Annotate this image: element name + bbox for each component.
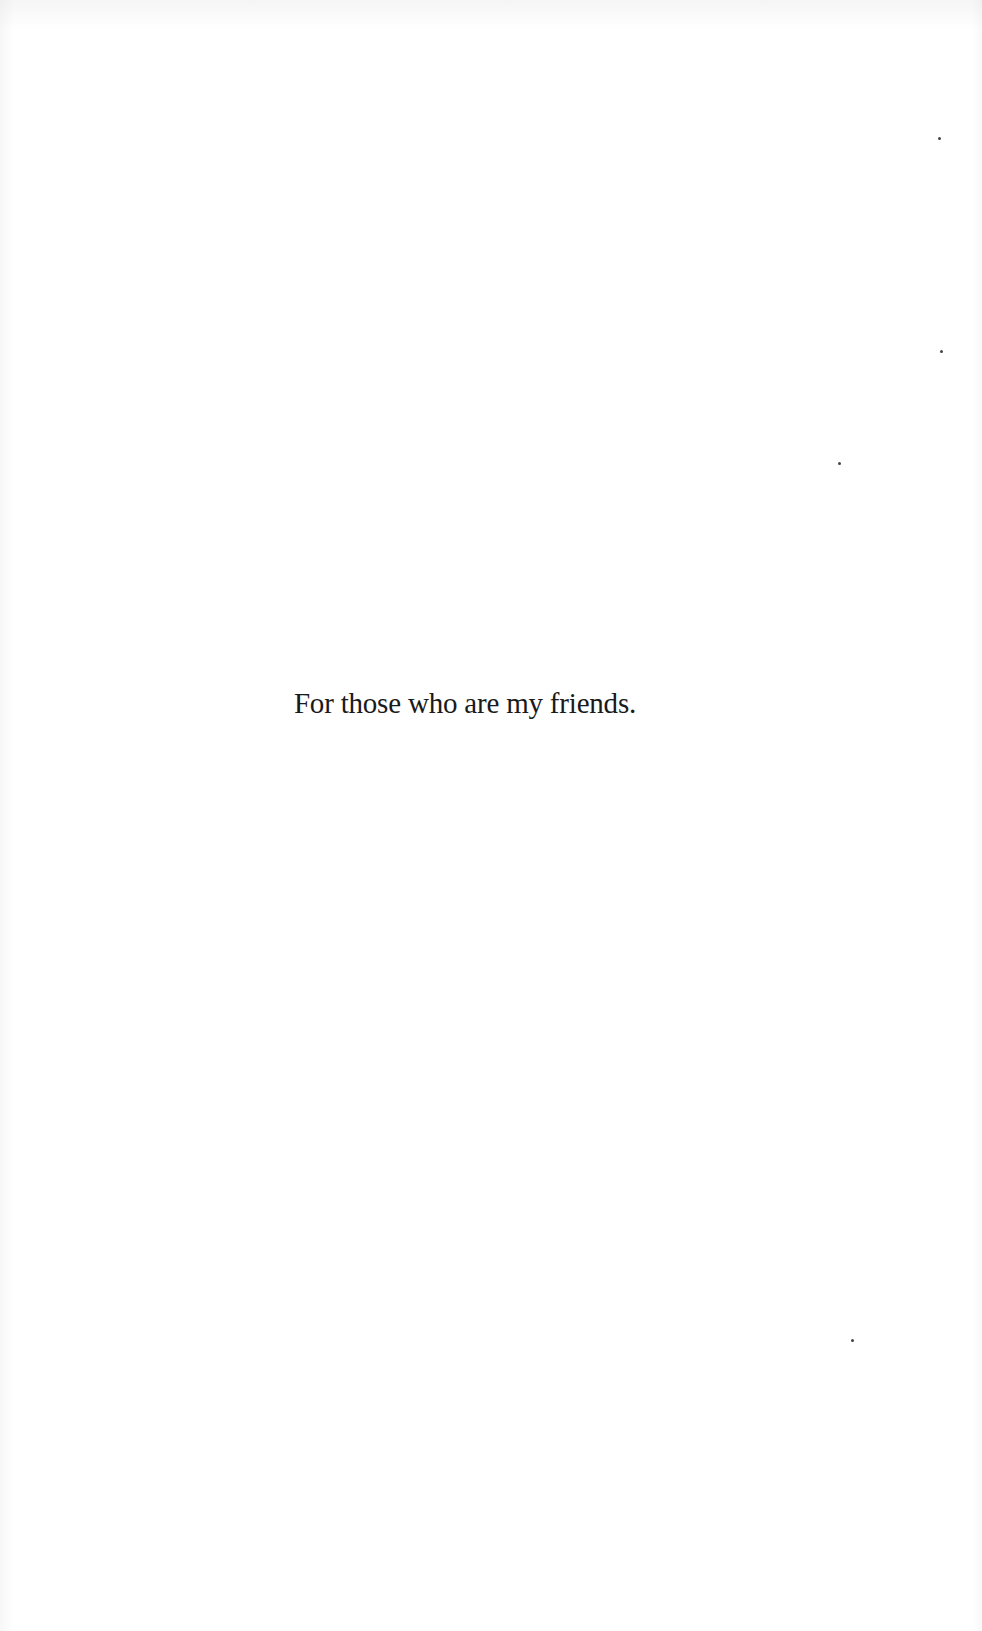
book-page: For those who are my friends. (0, 0, 982, 1631)
scan-shadow-left (0, 0, 14, 1631)
scan-speck (938, 137, 941, 140)
scan-shadow-top (0, 0, 982, 30)
dedication-text: For those who are my friends. (0, 683, 930, 723)
scan-speck (940, 350, 943, 353)
scan-speck (851, 1339, 854, 1342)
scan-shadow-right (972, 0, 982, 1631)
scan-speck (838, 462, 841, 465)
